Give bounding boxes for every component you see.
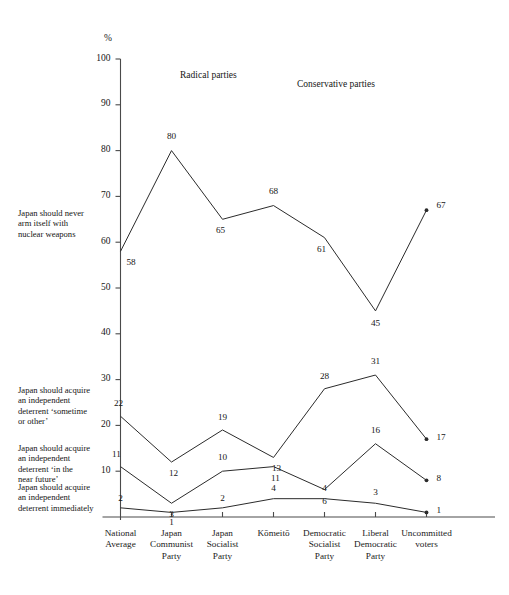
y-tick-label-90: 90 (85, 98, 111, 108)
series-label-never-arm: Japan should neverarm itself withnuclear… (18, 208, 118, 239)
data-label-s3-p6: 16 (371, 425, 381, 435)
x-category-label-6: Uncommittedvoters (394, 528, 460, 551)
x-category-label-line: Party (190, 551, 256, 562)
data-label-s3-p4: 11 (271, 473, 280, 483)
data-label-s1-p6: 45 (371, 318, 381, 328)
series-label-sometime-or-other: Japan should acquirean independentdeterr… (18, 385, 118, 427)
y-tick-label-100: 100 (85, 53, 111, 63)
data-label-s1-p3: 65 (216, 225, 226, 235)
data-label-s2-p5: 28 (320, 371, 330, 381)
series-label-line: deterrent ‘in the (18, 464, 118, 474)
data-label-s4-p6: 3 (373, 487, 378, 497)
series-label-line: deterrent immediately (18, 503, 118, 513)
chart-container: 5880656861456722121913283117113101161682… (0, 0, 509, 595)
x-category-label-line: Socialist (190, 539, 256, 550)
data-label-s4-p4: 4 (271, 483, 276, 493)
data-label-s2-p7: 17 (437, 432, 447, 442)
series-label-line: an independent (18, 395, 118, 405)
series-label-line: Japan should acquire (18, 482, 118, 492)
data-label-s2-p2: 12 (169, 468, 179, 478)
annotation-radical-parties: Radical parties (180, 70, 237, 80)
series-label-near-future: Japan should acquirean independentdeterr… (18, 443, 118, 485)
series-label-line: arm itself with (18, 218, 118, 228)
data-label-s1-p2: 80 (167, 131, 177, 141)
series-label-line: or other’ (18, 416, 118, 426)
series-label-immediately: Japan should acquirean independentdeterr… (18, 482, 118, 513)
data-label-s4-p7: 1 (437, 505, 442, 515)
y-axis-unit-label: % (104, 33, 112, 43)
y-tick-label-50: 50 (85, 282, 111, 292)
data-label-s4-p1: 2 (118, 493, 123, 503)
data-label-s1-p1: 58 (127, 257, 137, 267)
data-label-s4-p2: 1 (169, 517, 174, 527)
chart-axes (103, 59, 496, 520)
x-category-label-line: voters (394, 539, 460, 550)
data-label-s2-p3: 19 (218, 412, 228, 422)
data-label-s3-p3: 10 (218, 452, 228, 462)
x-category-label-line: Uncommitted (394, 528, 460, 539)
data-label-s4-p5: 4 (322, 483, 327, 493)
data-label-s3-p7: 8 (437, 473, 442, 483)
series-label-line: Japan should never (18, 208, 118, 218)
data-label-s4-p3: 2 (220, 493, 225, 503)
y-tick-label-30: 30 (85, 373, 111, 383)
series-label-line: an independent (18, 453, 118, 463)
data-label-s1-p4: 68 (269, 186, 279, 196)
annotation-conservative-parties: Conservative parties (297, 79, 375, 89)
data-label-s1-p7: 67 (437, 200, 447, 210)
data-label-s3-p5: 6 (322, 496, 327, 506)
series-label-line: nuclear weapons (18, 229, 118, 239)
data-label-s2-p6: 31 (371, 356, 381, 366)
data-label-s1-p5: 61 (317, 244, 327, 254)
series-label-line: Japan should acquire (18, 443, 118, 453)
x-category-label-line: Party (343, 551, 409, 562)
chart-series-lines: 5880656861456722121913283117113101161682… (112, 131, 446, 528)
series-label-line: deterrent ‘sometime (18, 406, 118, 416)
series-label-line: an independent (18, 492, 118, 502)
y-tick-label-40: 40 (85, 327, 111, 337)
y-tick-label-80: 80 (85, 144, 111, 154)
series-label-line: Japan should acquire (18, 385, 118, 395)
y-tick-label-70: 70 (85, 190, 111, 200)
